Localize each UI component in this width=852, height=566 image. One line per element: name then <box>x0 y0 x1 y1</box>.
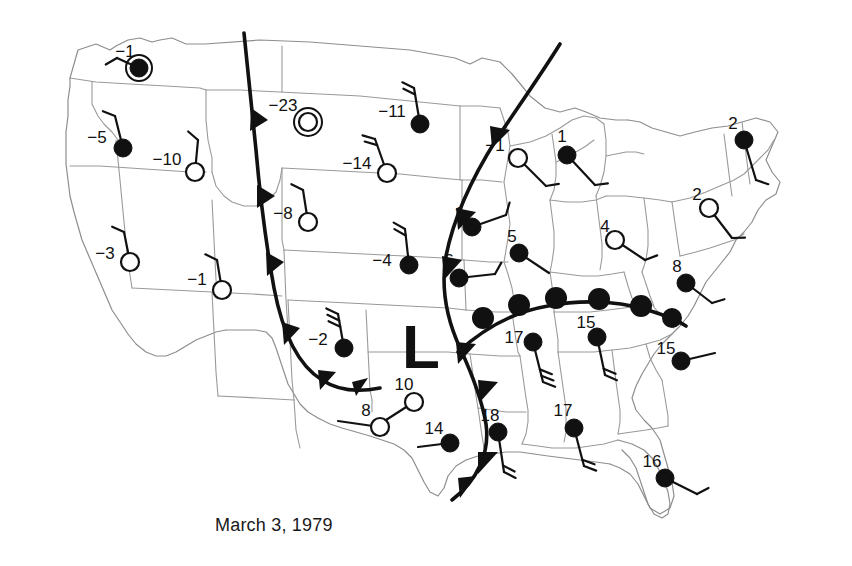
station-symbol-filled <box>558 146 576 164</box>
station-temperature-label: −14 <box>343 154 372 173</box>
station-plot: −11 <box>378 82 429 133</box>
station-symbol-filled <box>400 256 418 274</box>
station-symbol-filled <box>335 339 353 357</box>
wind-barb-feather <box>363 135 375 139</box>
wind-barb-feather <box>543 382 555 387</box>
wind-barb-feather <box>495 263 501 274</box>
station-symbol-open <box>299 113 317 131</box>
wind-barb-feather <box>712 299 724 303</box>
station-temperature-label: 17 <box>505 328 524 347</box>
station-symbol-open <box>509 149 527 167</box>
wind-barb-feather <box>394 223 405 229</box>
station-temperature-label: −1 <box>187 270 206 289</box>
station-plot: 17 <box>554 401 597 470</box>
station-symbol-open <box>700 199 718 217</box>
station-plot: −3 <box>95 227 139 271</box>
station-plot: 2 <box>692 185 745 238</box>
station-temperature-label: −1 <box>485 136 504 155</box>
station-plot: 17 <box>505 328 556 386</box>
station-plot: −4 <box>372 223 418 274</box>
station-temperature-label: 15 <box>657 339 676 358</box>
station-symbol-open <box>121 253 139 271</box>
station-temperature-label: 2 <box>692 185 701 204</box>
low-pressure-marker: L <box>402 312 440 381</box>
station-symbol-open <box>405 393 423 411</box>
weather-map-figure: −1−5−10−23−11−14−8−3−1−2−4−1115642281715… <box>0 0 852 566</box>
station-plot: 10 <box>386 375 423 420</box>
station-temperature-label: 6 <box>444 251 453 270</box>
station-plot: −10 <box>153 131 204 181</box>
wind-barb-feather <box>546 184 559 186</box>
station-plot: 4 <box>600 217 657 260</box>
station-plot: −2 <box>308 308 353 357</box>
station-temperature-label: −11 <box>378 102 406 121</box>
station-symbol-open <box>378 164 396 182</box>
station-plot: −14 <box>343 135 396 182</box>
station-symbol-open <box>371 418 389 436</box>
warm-front-line <box>458 302 686 352</box>
station-temperature-label: 8 <box>672 257 681 276</box>
wind-barb-feather <box>326 308 338 314</box>
fronts-layer <box>244 33 686 500</box>
station-plot: 15 <box>657 339 715 370</box>
station-symbol-filled <box>463 218 481 236</box>
station-plot: −8 <box>273 184 317 231</box>
station-plot: 15 <box>577 313 617 380</box>
station-temperature-label: 1 <box>557 127 566 146</box>
station-symbol-filled <box>565 419 583 437</box>
wind-barb-feather <box>291 184 303 190</box>
station-symbol-open <box>299 213 317 231</box>
wind-barb-feather <box>188 131 198 140</box>
station-temperature-label: −3 <box>95 244 114 263</box>
station-temperature-label: −23 <box>269 96 298 115</box>
station-temperature-label: 14 <box>425 419 444 438</box>
station-temperature-label: −4 <box>372 251 391 270</box>
station-temperature-label: −10 <box>153 150 182 169</box>
station-symbol-filled <box>510 244 528 262</box>
station-symbol-filled <box>441 434 459 452</box>
station-temperature-label: 8 <box>361 401 370 420</box>
station-symbol-filled <box>656 469 674 487</box>
station-symbol-filled <box>114 139 132 157</box>
station-plot: 1 <box>557 127 608 185</box>
station-temperature-label: 15 <box>577 313 596 332</box>
station-plot: −23 <box>269 96 322 136</box>
wind-barb-feather <box>402 82 414 88</box>
station-temperature-label: −8 <box>273 204 292 223</box>
station-symbol-open <box>213 281 231 299</box>
station-symbol-open <box>186 163 204 181</box>
wind-barb-feather <box>506 203 510 215</box>
station-plot: 6 <box>444 251 501 287</box>
station-plot: 1 <box>454 203 509 236</box>
station-symbol-filled <box>524 333 542 351</box>
wind-barb-feather <box>595 183 608 185</box>
station-symbol-filled <box>735 131 753 149</box>
station-plot: 5 <box>507 227 549 273</box>
station-temperature-label: 16 <box>643 452 662 471</box>
station-temperature-label: 18 <box>481 406 500 425</box>
station-temperature-label: 2 <box>728 114 737 133</box>
station-temperature-label: −5 <box>87 128 106 147</box>
wind-barb-feather <box>103 111 115 116</box>
wind-barb-feather <box>504 472 516 478</box>
station-temperature-label: −1 <box>115 42 134 61</box>
wind-barb-feather <box>112 227 124 232</box>
station-temperature-label: 1 <box>454 204 463 223</box>
station-plot: 14 <box>418 419 459 452</box>
station-temperature-label: 17 <box>554 401 573 420</box>
station-plot: −5 <box>87 111 132 157</box>
station-symbol-filled <box>411 115 429 133</box>
wind-barb-feather <box>584 466 596 471</box>
station-symbol-filled <box>130 59 148 77</box>
station-symbol-filled <box>489 423 507 441</box>
wind-barb-feather <box>756 180 768 184</box>
station-temperature-label: 4 <box>600 217 609 236</box>
station-symbol-filled <box>450 269 468 287</box>
station-plot: 16 <box>643 452 709 494</box>
date-caption: March 3, 1979 <box>215 515 333 536</box>
weather-map-canvas: −1−5−10−23−11−14−8−3−1−2−4−1115642281715… <box>0 0 852 566</box>
station-plot: 8 <box>338 401 389 436</box>
wind-barb-feather <box>697 488 708 494</box>
station-symbol-filled <box>677 274 695 292</box>
station-temperature-label: 5 <box>507 227 516 246</box>
